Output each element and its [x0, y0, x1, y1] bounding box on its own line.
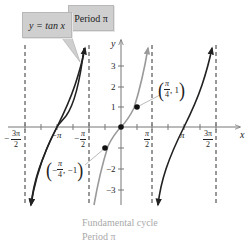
period-callout: Period π: [68, 5, 114, 31]
function-callout: y = tan x: [22, 12, 72, 38]
x-tick-neg-3pi-2: 3π 2: [11, 130, 21, 149]
y-tick-2: 2: [111, 83, 116, 92]
caption-period: Period π: [82, 231, 116, 242]
point-neg-pi-4-neg-1: [102, 145, 108, 151]
point-pi-4-1: [134, 104, 140, 110]
leader-line-neg-pi-4: [85, 148, 105, 165]
point-label-pi-4-1: ( π 4 , 1 ): [158, 80, 185, 99]
leader-line-pi-4: [137, 95, 160, 107]
point-origin: [118, 124, 124, 130]
y-tick-3: 3: [111, 62, 116, 71]
x-tick-neg-pi-2-sign: −: [74, 134, 79, 143]
x-tick-neg-pi-2: π 2: [80, 130, 86, 149]
y-axis-label: y: [111, 39, 115, 49]
callout-pointer: [62, 38, 80, 62]
x-tick-neg-3pi-2-sign: −: [4, 134, 9, 143]
function-callout-text: y = tan x: [29, 20, 65, 31]
point-label-neg-pi-4-neg-1: ( − π 4 , −1 ): [46, 160, 83, 179]
y-tick-1: 1: [111, 103, 116, 112]
period-callout-text: Period π: [74, 13, 108, 24]
x-tick-neg-pi: −π: [51, 131, 62, 140]
caption-fundamental-cycle: Fundamental cycle: [82, 217, 158, 228]
x-tick-pi-2: π 2: [144, 130, 150, 149]
tan-branch-right-upper: [184, 48, 212, 127]
tan-branch-left-upper: [57, 48, 85, 127]
x-tick-3pi-2: 3π 2: [203, 130, 213, 149]
y-tick-neg-3: −3: [106, 186, 116, 195]
y-tick-neg-2: −2: [106, 165, 116, 174]
x-tick-pi: π: [180, 131, 185, 140]
x-axis-label: x: [240, 130, 244, 140]
